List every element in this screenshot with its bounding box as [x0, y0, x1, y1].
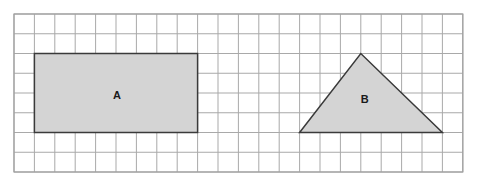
- rectangle-a-label: A: [113, 89, 121, 101]
- grid-diagram: A B: [0, 0, 478, 182]
- triangle-b-label: B: [361, 93, 369, 105]
